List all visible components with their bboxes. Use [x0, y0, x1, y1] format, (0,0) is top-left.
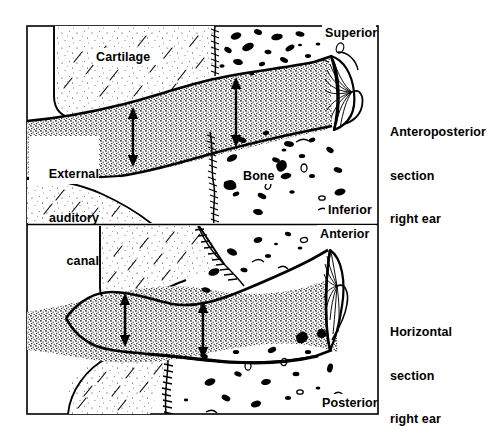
label-bone: Bone: [243, 169, 275, 184]
caption-horizontal-section: Horizontal section right ear: [390, 296, 452, 429]
label-external-auditory-canal: External auditory canal: [31, 138, 99, 283]
label-external-line-3: canal: [31, 254, 99, 269]
label-external-line-2: auditory: [31, 211, 99, 226]
caption-hz-line-2: section: [390, 369, 452, 384]
caption-ap-line-1: Anteroposterior: [390, 125, 486, 140]
anatomy-figure: Cartilage Superior External auditory can…: [0, 0, 491, 429]
caption-hz-line-1: Horizontal: [390, 325, 452, 340]
caption-anteroposterior-section: Anteroposterior section right ear: [390, 96, 486, 241]
label-posterior: Posterior: [322, 396, 378, 411]
label-superior: Superior: [325, 26, 377, 41]
caption-hz-line-3: right ear: [390, 412, 452, 427]
label-external-line-1: External: [31, 167, 99, 182]
label-cartilage: Cartilage: [96, 50, 150, 65]
label-inferior: Inferior: [328, 203, 372, 218]
label-anterior: Anterior: [320, 227, 369, 242]
caption-ap-line-3: right ear: [390, 212, 486, 227]
caption-ap-line-2: section: [390, 169, 486, 184]
